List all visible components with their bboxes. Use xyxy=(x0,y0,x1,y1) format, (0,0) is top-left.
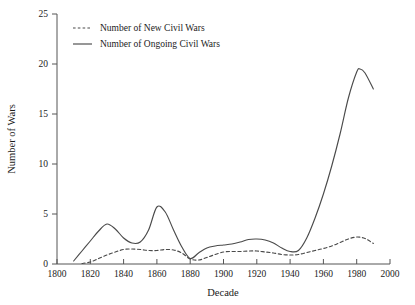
x-tick-label: 1800 xyxy=(48,269,67,279)
x-tick-label: 1900 xyxy=(214,269,233,279)
y-tick-label: 0 xyxy=(43,259,48,269)
y-axis-title: Number of Wars xyxy=(6,104,17,174)
x-tick-label: 1960 xyxy=(314,269,333,279)
x-tick-label: 1860 xyxy=(147,269,166,279)
x-tick-label: 1940 xyxy=(281,269,300,279)
legend-label: Number of New Civil Wars xyxy=(100,23,205,33)
y-tick-label: 25 xyxy=(39,9,49,19)
y-tick-label: 15 xyxy=(39,109,49,119)
x-tick-label: 1820 xyxy=(81,269,100,279)
civil-wars-line-chart: 0510152025 Number of Wars 18001820184018… xyxy=(0,0,415,305)
x-tick-label: 1980 xyxy=(347,269,366,279)
chart-canvas: 0510152025 Number of Wars 18001820184018… xyxy=(0,0,415,305)
x-axis-title: Decade xyxy=(207,287,239,298)
x-tick-label: 1880 xyxy=(181,269,200,279)
legend-label: Number of Ongoing Civil Wars xyxy=(100,39,220,49)
y-tick-label: 5 xyxy=(43,209,48,219)
x-tick-label: 1920 xyxy=(247,269,266,279)
y-tick-label: 20 xyxy=(39,59,49,69)
y-tick-label: 10 xyxy=(39,159,49,169)
x-tick-label: 2000 xyxy=(381,269,400,279)
x-tick-label: 1840 xyxy=(114,269,133,279)
